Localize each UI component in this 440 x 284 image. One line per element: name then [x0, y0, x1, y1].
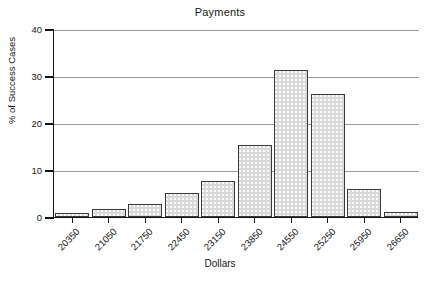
x-tick [181, 218, 182, 223]
x-tick [254, 218, 255, 223]
bar [384, 212, 418, 217]
y-tick [45, 29, 54, 30]
x-tick [400, 218, 401, 223]
bar [274, 70, 308, 217]
x-tick-label: 21050 [84, 226, 119, 261]
y-tick-label: 0 [37, 213, 42, 223]
y-tick [45, 170, 54, 171]
bar [201, 181, 235, 217]
x-tick-label: 23150 [193, 226, 228, 261]
x-tick-label: 26650 [376, 226, 411, 261]
x-tick-label: 22450 [157, 226, 192, 261]
x-tick [327, 218, 328, 223]
y-tick-label: 20 [31, 119, 42, 129]
x-tick [108, 218, 109, 223]
bar [165, 193, 199, 217]
y-tick [45, 217, 54, 218]
bar [311, 94, 345, 217]
bar-chart: Payments % of Success Cases 010203040 20… [0, 0, 440, 284]
x-tick [364, 218, 365, 223]
chart-title: Payments [0, 6, 440, 18]
bar [92, 209, 126, 217]
bar [55, 213, 89, 217]
y-tick [45, 123, 54, 124]
x-tick-label: 25250 [303, 226, 338, 261]
x-tick [145, 218, 146, 223]
x-tick-label: 24550 [266, 226, 301, 261]
x-tick-label: 21750 [120, 226, 155, 261]
y-axis-label: % of Success Cases [6, 37, 17, 124]
x-axis-label: Dollars [0, 258, 440, 269]
y-tick-label: 10 [31, 166, 42, 176]
y-tick [45, 76, 54, 77]
x-tick [218, 218, 219, 223]
x-tick-label: 20350 [47, 226, 82, 261]
bar [238, 145, 272, 217]
bar [347, 189, 381, 217]
bar-series [54, 29, 419, 217]
x-tick [291, 218, 292, 223]
y-tick-label: 40 [31, 25, 42, 35]
x-tick [72, 218, 73, 223]
x-tick-label: 25950 [339, 226, 374, 261]
bar [128, 204, 162, 217]
x-tick-label: 23850 [230, 226, 265, 261]
y-tick-label: 30 [31, 72, 42, 82]
plot-area: 010203040 203502105021750224502315023850… [53, 30, 418, 218]
